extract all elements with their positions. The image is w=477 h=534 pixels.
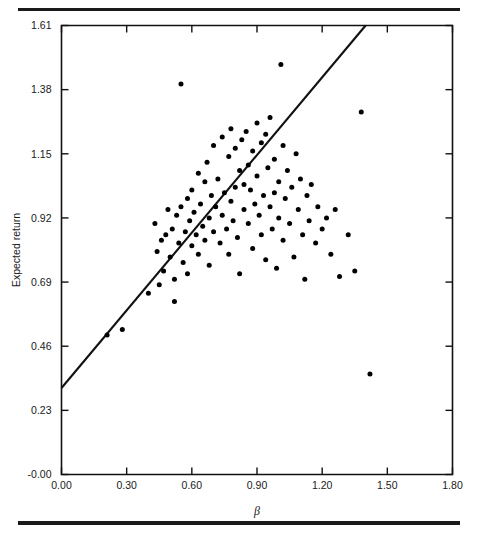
scatter-point	[226, 252, 231, 257]
scatter-point	[220, 213, 225, 218]
figure-container: 0.000.300.600.901.201.501.80 -0.000.230.…	[0, 0, 477, 534]
scatter-point	[237, 271, 242, 276]
scatter-point	[259, 232, 264, 237]
y-tick-label: 0.23	[31, 404, 52, 416]
y-tick-labels: -0.000.230.460.690.921.151.381.61	[28, 19, 52, 480]
scatter-point	[183, 229, 188, 234]
y-tick-label: 0.92	[31, 212, 52, 224]
scatter-point	[185, 271, 190, 276]
scatter-point	[178, 204, 183, 209]
scatter-point	[285, 168, 290, 173]
y-tick-label: 0.69	[31, 276, 52, 288]
scatter-point	[178, 82, 183, 87]
scatter-point	[263, 257, 268, 262]
x-axis-title: β	[253, 504, 260, 518]
scatter-point	[146, 291, 151, 296]
scatter-point	[220, 135, 225, 140]
scatter-point	[231, 218, 236, 223]
scatter-point	[250, 149, 255, 154]
scatter-point	[241, 182, 246, 187]
scatter-point	[152, 221, 157, 226]
scatter-point	[307, 218, 312, 223]
scatter-point	[296, 207, 301, 212]
scatter-point	[192, 210, 197, 215]
scatter-point	[246, 162, 251, 167]
scatter-point	[202, 179, 207, 184]
scatter-point	[120, 327, 125, 332]
scatter-point	[333, 207, 338, 212]
scatter-point	[224, 227, 229, 232]
scatter-point	[291, 254, 296, 259]
y-tick-label: 0.46	[31, 340, 52, 352]
scatter-point	[302, 277, 307, 282]
scatter-point	[300, 232, 305, 237]
scatter-point	[161, 268, 166, 273]
x-tick-label: 0.30	[116, 479, 137, 491]
y-tick-label: -0.00	[28, 468, 52, 480]
scatter-point	[105, 333, 110, 338]
scatter-point	[259, 140, 264, 145]
y-axis-title: Expected return	[10, 213, 22, 287]
scatter-point	[287, 221, 292, 226]
x-tick-label: 0.60	[182, 479, 203, 491]
scatter-point	[205, 160, 210, 165]
scatter-point	[213, 204, 218, 209]
y-tick-label: 1.15	[31, 148, 52, 160]
scatter-point	[255, 174, 260, 179]
scatter-point	[196, 252, 201, 257]
scatter-point	[250, 246, 255, 251]
scatter-plot: 0.000.300.600.901.201.501.80 -0.000.230.…	[0, 0, 477, 534]
scatter-point	[168, 254, 173, 259]
scatter-point	[207, 215, 212, 220]
scatter-point	[352, 268, 357, 273]
scatter-point	[181, 260, 186, 265]
scatter-point	[189, 243, 194, 248]
scatter-point	[298, 176, 303, 181]
scatter-point	[346, 232, 351, 237]
scatter-point	[174, 213, 179, 218]
scatter-point	[276, 215, 281, 220]
scatter-point	[170, 227, 175, 232]
scatter-point	[367, 372, 372, 377]
scatter-point	[211, 143, 216, 148]
y-tick-label: 1.38	[31, 83, 52, 95]
tick-marks	[62, 26, 453, 475]
scatter-point	[239, 137, 244, 142]
scatter-point	[226, 154, 231, 159]
scatter-point	[222, 190, 227, 195]
scatter-point	[261, 193, 266, 198]
x-tick-label: 1.50	[377, 479, 398, 491]
scatter-point	[252, 201, 257, 206]
scatter-point	[228, 199, 233, 204]
scatter-point	[328, 252, 333, 257]
x-tick-label: 1.20	[312, 479, 333, 491]
scatter-point	[228, 126, 233, 131]
scatter-point	[159, 238, 164, 243]
y-tick-label: 1.61	[31, 19, 52, 31]
scatter-point	[255, 121, 260, 126]
scatter-point	[187, 218, 192, 223]
x-tick-label: 0.00	[51, 479, 72, 491]
scatter-point	[235, 235, 240, 240]
scatter-point	[218, 241, 223, 246]
scatter-point	[274, 266, 279, 271]
scatter-point	[324, 215, 329, 220]
scatter-point	[244, 129, 249, 134]
scatter-point	[309, 182, 314, 187]
scatter-point	[359, 109, 364, 114]
scatter-point	[163, 232, 168, 237]
scatter-point	[304, 193, 309, 198]
scatter-point	[272, 190, 277, 195]
scatter-point	[172, 299, 177, 304]
scatter-point	[189, 188, 194, 193]
scatter-point	[268, 115, 273, 120]
x-tick-labels: 0.000.300.600.901.201.501.80	[51, 479, 463, 491]
x-tick-label: 1.80	[442, 479, 463, 491]
plot-axes	[62, 26, 453, 475]
scatter-point	[194, 232, 199, 237]
scatter-point	[233, 185, 238, 190]
scatter-point	[209, 193, 214, 198]
scatter-point	[241, 207, 246, 212]
scatter-point	[276, 179, 281, 184]
scatter-points	[105, 62, 373, 377]
